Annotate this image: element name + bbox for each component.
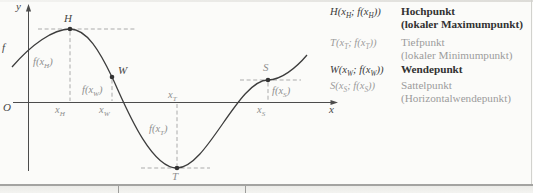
legend-subname-hochpunkt: (lokaler Maximumpunkt): [401, 18, 523, 31]
legend-formula-T: T(xT; f(xT)): [330, 36, 401, 62]
function-extrema-figure: y x O f H W T S f(xH) f(xW) f(xT) f(xS) …: [0, 0, 533, 193]
value-label-fxS: f(xS): [272, 85, 290, 96]
legend-subname-tiefpunkt: (lokaler Minimumpunkt): [401, 49, 513, 62]
legend-formula-W: W(xW; f(xW)): [330, 63, 401, 76]
function-curve: [12, 29, 307, 168]
legend-row-tiefpunkt: T(xT; f(xT)) Tiefpunkt (lokaler Minimump…: [330, 36, 513, 62]
legend-name-wendepunkt: Wendepunkt: [401, 63, 463, 76]
legend-row-hochpunkt: H(xH; f(xH)) Hochpunkt (lokaler Maximump…: [330, 5, 523, 31]
legend-formula-H: H(xH; f(xH)): [330, 5, 401, 31]
legend-name-sattelpunkt: Sattelpunkt: [401, 79, 511, 92]
point-H-label: H: [64, 13, 72, 24]
table-top-border: [0, 184, 533, 193]
xcoord-label-xT: xT: [168, 89, 177, 100]
legend-row-wendepunkt: W(xW; f(xW)) Wendepunkt: [330, 63, 463, 76]
function-label: f: [2, 42, 5, 53]
point-S: [266, 78, 271, 83]
legend-formula-S: S(xS; f(xS)): [330, 79, 401, 105]
xcoord-label-xS: xS: [257, 104, 265, 115]
xcoord-label-xH: xH: [55, 104, 65, 115]
point-T-label: T: [172, 171, 178, 182]
origin-label: O: [3, 102, 11, 113]
value-label-fxT: f(xT): [149, 123, 168, 134]
value-label-fxH: f(xH): [33, 56, 53, 67]
point-S-label: S: [263, 62, 269, 73]
legend-subname-sattelpunkt: (Horizontalwendepunkt): [401, 92, 511, 105]
legend-name-tiefpunkt: Tiefpunkt: [401, 36, 513, 49]
legend-name-hochpunkt: Hochpunkt: [401, 5, 523, 18]
y-axis-arrow-icon: [26, 4, 31, 12]
value-label-fxW: f(xW): [82, 84, 103, 95]
point-W: [110, 75, 115, 80]
table-column-divider: [245, 186, 246, 193]
legend-row-sattelpunkt: S(xS; f(xS)) Sattelpunkt (Horizontalwend…: [330, 79, 511, 105]
point-W-label: W: [118, 65, 127, 76]
y-axis-label: y: [16, 1, 21, 12]
table-column-divider: [118, 186, 119, 193]
x-axis-label: x: [329, 104, 334, 115]
xcoord-label-xW: xW: [99, 104, 110, 115]
point-H: [68, 27, 73, 32]
